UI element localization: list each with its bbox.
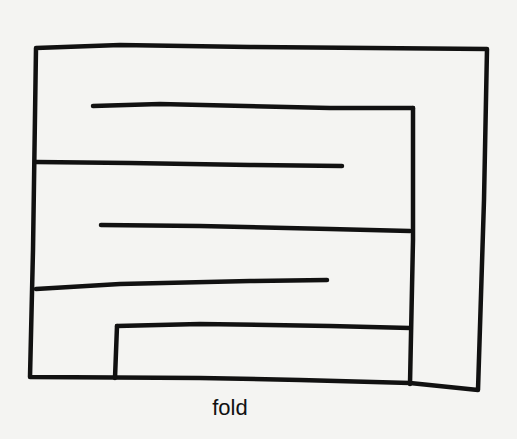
line-1 [93, 104, 413, 108]
step-top-line [117, 324, 410, 328]
line-4 [36, 280, 327, 289]
step-left-wall [115, 326, 117, 378]
line-3 [101, 225, 410, 231]
line-2 [36, 162, 342, 166]
line-1-right-wall [410, 108, 413, 384]
fold-label: fold [212, 395, 247, 421]
diagram-canvas [0, 0, 517, 439]
outer-frame [30, 45, 487, 390]
